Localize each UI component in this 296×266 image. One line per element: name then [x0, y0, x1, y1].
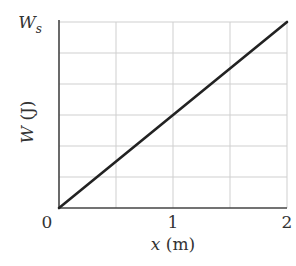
chart: 012 Ws x (m) W (J) — [0, 0, 296, 266]
x-axis-label: x (m) — [151, 234, 195, 254]
tick-labels: 012 — [42, 212, 293, 232]
y-axis-label-var: W — [17, 124, 37, 143]
x-axis-label-unit: (m) — [160, 234, 195, 254]
x-tick-label: 1 — [168, 212, 179, 232]
y-top-label-sub: s — [36, 22, 42, 36]
y-axis-label-unit: (J) — [17, 101, 37, 126]
y-top-label-main: W — [18, 12, 37, 32]
x-tick-label: 0 — [42, 212, 53, 232]
y-top-label: Ws — [18, 12, 42, 36]
x-tick-label: 2 — [282, 212, 293, 232]
y-axis-label: W (J) — [17, 101, 37, 144]
x-axis-label-var: x — [151, 234, 161, 254]
